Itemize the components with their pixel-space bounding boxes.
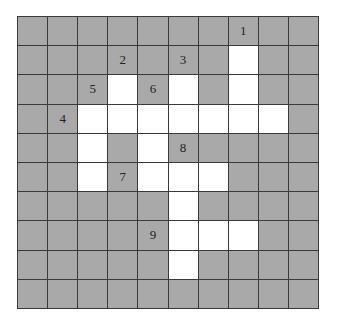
grid-cell-blocked [18, 221, 47, 249]
grid-cell-open[interactable] [108, 105, 137, 133]
grid-cell-blocked [289, 221, 318, 249]
grid-cell-blocked [78, 221, 107, 249]
grid-cell-blocked [289, 251, 318, 279]
grid-cell-blocked [169, 280, 198, 308]
grid-cell-open[interactable] [169, 75, 198, 103]
clue-number: 7 [120, 169, 127, 185]
grid-cell-open[interactable] [229, 75, 258, 103]
grid-cell-blocked: 8 [169, 134, 198, 162]
clue-number: 4 [59, 111, 66, 127]
grid-cell-blocked [289, 17, 318, 45]
grid-cell-blocked: 6 [138, 75, 167, 103]
grid-cell-blocked [108, 134, 137, 162]
grid-cell-blocked [108, 221, 137, 249]
grid-cell-blocked [289, 163, 318, 191]
grid-cell-blocked [199, 280, 228, 308]
grid-cell-open[interactable] [138, 134, 167, 162]
grid-cell-blocked [48, 280, 77, 308]
grid-cell-blocked [138, 280, 167, 308]
grid-cell-blocked [48, 17, 77, 45]
grid-cell-blocked [138, 46, 167, 74]
grid-cell-blocked [48, 221, 77, 249]
grid-cell-blocked [138, 251, 167, 279]
clue-number: 3 [180, 52, 187, 68]
grid-cell-blocked [78, 280, 107, 308]
grid-cell-blocked: 7 [108, 163, 137, 191]
grid-cell-open[interactable] [138, 105, 167, 133]
grid-cell-blocked [18, 134, 47, 162]
grid-cell-blocked [108, 280, 137, 308]
grid-cell-blocked [18, 163, 47, 191]
grid-cell-open[interactable] [169, 221, 198, 249]
grid-cell-blocked [199, 134, 228, 162]
grid-cell-blocked [199, 46, 228, 74]
grid-cell-blocked [199, 192, 228, 220]
grid-cell-blocked [289, 192, 318, 220]
grid-cell-blocked [289, 75, 318, 103]
grid-cell-blocked [108, 251, 137, 279]
grid-cell-open[interactable] [78, 105, 107, 133]
grid-cell-blocked [229, 134, 258, 162]
grid-cell-blocked: 9 [138, 221, 167, 249]
clue-number: 5 [89, 81, 96, 97]
grid-cell-open[interactable] [229, 221, 258, 249]
grid-cell-blocked [259, 17, 288, 45]
grid-cell-blocked [18, 105, 47, 133]
grid-cell-blocked [108, 192, 137, 220]
grid-cell-blocked: 2 [108, 46, 137, 74]
grid-cell-open[interactable] [169, 105, 198, 133]
grid-cell-blocked: 5 [78, 75, 107, 103]
grid-cell-blocked [18, 46, 47, 74]
grid-cell-blocked [18, 17, 47, 45]
grid-cell-blocked [259, 134, 288, 162]
grid-cell-open[interactable] [199, 105, 228, 133]
crossword-grid: 123564879 [17, 16, 319, 309]
grid-cell-blocked [289, 134, 318, 162]
grid-cell-blocked: 1 [229, 17, 258, 45]
grid-cell-blocked [138, 17, 167, 45]
clue-number: 9 [150, 227, 157, 243]
grid-cell-open[interactable] [259, 105, 288, 133]
grid-cell-open[interactable] [229, 105, 258, 133]
grid-cell-blocked [289, 105, 318, 133]
grid-cell-open[interactable] [199, 221, 228, 249]
grid-cell-blocked [199, 17, 228, 45]
grid-cell-blocked [259, 251, 288, 279]
grid-cell-blocked [78, 17, 107, 45]
grid-cell-blocked [289, 280, 318, 308]
grid-cell-blocked [138, 192, 167, 220]
grid-cell-blocked [259, 192, 288, 220]
grid-cell-blocked [199, 75, 228, 103]
grid-cell-blocked [108, 17, 137, 45]
grid-cell-blocked [259, 75, 288, 103]
grid-cell-blocked: 4 [48, 105, 77, 133]
grid-cell-blocked [259, 221, 288, 249]
grid-cell-blocked [48, 134, 77, 162]
grid-cell-blocked [78, 192, 107, 220]
grid-cell-open[interactable] [169, 251, 198, 279]
grid-cell-open[interactable] [78, 163, 107, 191]
clue-number: 2 [120, 52, 127, 68]
clue-number: 1 [240, 23, 247, 39]
grid-cell-blocked: 3 [169, 46, 198, 74]
grid-cell-blocked [289, 46, 318, 74]
grid-cell-open[interactable] [229, 46, 258, 74]
grid-cell-blocked [259, 46, 288, 74]
grid-cell-blocked [169, 17, 198, 45]
grid-cell-blocked [48, 46, 77, 74]
grid-cell-open[interactable] [199, 163, 228, 191]
grid-cell-open[interactable] [169, 163, 198, 191]
grid-cell-open[interactable] [169, 192, 198, 220]
grid-cell-open[interactable] [138, 163, 167, 191]
grid-cell-open[interactable] [108, 75, 137, 103]
grid-cell-blocked [229, 192, 258, 220]
grid-cell-open[interactable] [78, 134, 107, 162]
grid-cell-blocked [18, 280, 47, 308]
clue-number: 6 [150, 81, 157, 97]
grid-cell-blocked [48, 192, 77, 220]
grid-cell-blocked [229, 163, 258, 191]
grid-cell-blocked [18, 75, 47, 103]
grid-cell-blocked [48, 75, 77, 103]
grid-cell-blocked [259, 280, 288, 308]
grid-cell-blocked [18, 251, 47, 279]
